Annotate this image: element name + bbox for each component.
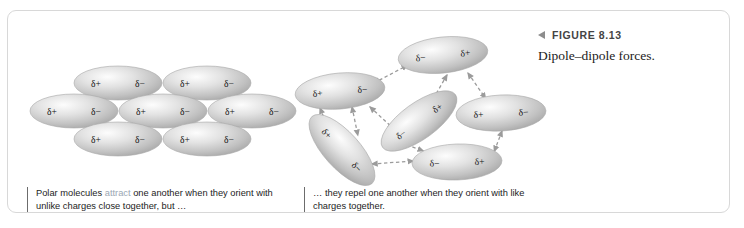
charge-label-right: δ+ xyxy=(474,157,484,167)
charge-label-right: δ+ xyxy=(460,48,471,59)
figure-number-label: FIGURE 8.13 xyxy=(552,29,622,41)
charge-label-right: δ− xyxy=(135,79,145,89)
charge-label-left: δ− xyxy=(415,52,426,63)
figure-title: Dipole–dipole forces. xyxy=(538,48,718,65)
figure-frame: δ+δ−δ+δ−δ+δ−δ+δ−δ+δ−δ+δ−δ+δ− δ−δ+δ+δ−δ−δ… xyxy=(7,10,730,213)
figure-caption-block: FIGURE 8.13 Dipole–dipole forces. xyxy=(538,29,718,65)
molecule-body xyxy=(396,32,489,77)
charge-label-right: δ− xyxy=(518,107,528,118)
molecule-r1: δ−δ+ xyxy=(396,32,489,77)
molecule-body xyxy=(163,122,251,156)
molecule-body xyxy=(299,105,386,196)
molecule-body xyxy=(455,93,547,134)
molecule-body xyxy=(294,69,387,113)
charge-label-left: δ+ xyxy=(91,79,101,89)
charge-label-left: δ+ xyxy=(180,79,190,89)
molecule-a6: δ+δ− xyxy=(74,122,162,156)
caption-attract: Polar molecules attract one another when… xyxy=(27,187,286,213)
charge-label-right: δ− xyxy=(135,135,145,145)
charge-label-left: δ+ xyxy=(136,107,146,117)
caption-repel-text: … they repel one another when they orien… xyxy=(313,188,524,211)
molecule-r2: δ+δ− xyxy=(294,69,387,113)
charge-label-right: δ− xyxy=(269,107,279,117)
charge-label-right: δ− xyxy=(180,107,190,117)
molecule-body xyxy=(411,142,502,181)
molecule-a7: δ+δ− xyxy=(163,122,251,156)
caption-attract-highlight: attract xyxy=(105,188,131,198)
molecule-r6: δ−δ+ xyxy=(411,142,502,181)
aligned-dipoles-cluster: δ+δ−δ+δ−δ+δ−δ+δ−δ+δ−δ+δ−δ+δ− xyxy=(30,66,296,156)
molecule-r4: δ+δ− xyxy=(455,93,547,134)
charge-label-right: δ− xyxy=(357,84,368,95)
charge-label-left: δ+ xyxy=(225,107,235,117)
charge-label-right: δ− xyxy=(91,107,101,117)
charge-label-left: δ+ xyxy=(312,88,323,99)
charge-label-left: δ+ xyxy=(473,110,483,121)
charge-label-left: δ− xyxy=(429,158,439,168)
caption-attract-part1: Polar molecules xyxy=(36,188,105,198)
force-line-2 xyxy=(468,73,486,99)
molecule-body xyxy=(74,122,162,156)
charge-label-left: δ+ xyxy=(180,135,190,145)
charge-label-right: δ− xyxy=(224,135,234,145)
disordered-dipoles-cluster: δ−δ+δ+δ−δ−δ+δ+δ−δ+δ−δ−δ+ xyxy=(294,32,547,195)
charge-label-left: δ+ xyxy=(91,135,101,145)
charge-label-right: δ− xyxy=(224,79,234,89)
figure-label-row: FIGURE 8.13 xyxy=(538,29,718,41)
molecule-r5: δ+δ− xyxy=(299,105,386,196)
force-line-8 xyxy=(494,131,502,152)
caption-repel: … they repel one another when they orien… xyxy=(304,187,553,213)
force-line-9 xyxy=(372,161,414,164)
force-line-5 xyxy=(352,107,358,136)
triangle-left-icon xyxy=(538,31,545,39)
charge-label-left: δ+ xyxy=(47,107,57,117)
